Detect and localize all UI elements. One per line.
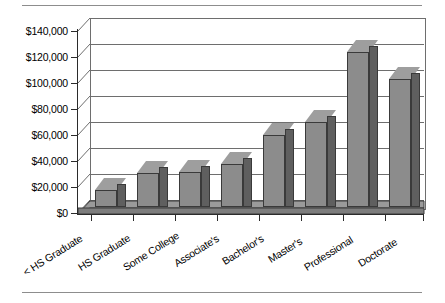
x-axis-tick-labels: < HS Graduate HS Graduate Some College A… bbox=[0, 0, 445, 303]
bar-chart: $140,000 $120,000 $100,000 $80,000 $60,0… bbox=[0, 0, 445, 303]
x-axis-tick-label: Doctorate bbox=[356, 236, 399, 269]
x-axis-tick-label: Some College bbox=[121, 230, 181, 273]
x-axis-tick-label: Master's bbox=[266, 236, 304, 265]
x-axis-tick-label: < HS Graduate bbox=[21, 233, 84, 278]
x-axis-tick-label: Bachelor's bbox=[220, 233, 265, 267]
x-axis-tick-label: Professional bbox=[302, 234, 355, 273]
